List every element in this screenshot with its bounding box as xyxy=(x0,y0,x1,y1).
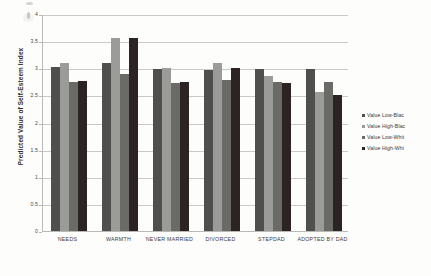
legend-swatch-icon xyxy=(362,147,365,150)
y-axis-tick-label: 2.5 xyxy=(14,93,38,98)
bar xyxy=(78,81,87,231)
bar-group xyxy=(247,15,298,231)
bar xyxy=(60,63,69,231)
bar xyxy=(213,63,222,231)
bar xyxy=(315,92,324,231)
bar xyxy=(153,69,162,231)
legend-label: Value High-Blac xyxy=(367,124,405,129)
bar xyxy=(162,68,171,231)
legend-label: Value High-Whi xyxy=(367,146,404,151)
bar xyxy=(204,70,213,231)
y-axis-tick-label: 1.5 xyxy=(14,148,38,153)
bar xyxy=(255,69,264,231)
x-axis-category-label: ADOPTED BY DAD xyxy=(297,236,348,243)
y-axis-tick-label: 0 xyxy=(14,229,38,234)
bar xyxy=(102,63,111,231)
legend-item[interactable]: Value High-Whi xyxy=(362,143,431,154)
chart-legend: Value Low-BlacValue High-BlacValue Low-W… xyxy=(362,110,431,154)
bar xyxy=(333,95,342,231)
y-axis-tick-label: 3.5 xyxy=(14,39,38,44)
bar xyxy=(264,76,273,231)
y-axis-tick-label: 1 xyxy=(14,175,38,180)
x-axis-category-label: WARMTH xyxy=(93,236,144,243)
y-axis-tick-label: 3 xyxy=(14,66,38,71)
bar xyxy=(222,80,231,231)
plot-area xyxy=(42,15,348,232)
bar xyxy=(180,82,189,231)
legend-item[interactable]: Value High-Blac xyxy=(362,121,431,132)
bar xyxy=(51,67,60,231)
y-axis-tick-mark xyxy=(39,232,42,233)
legend-label: Value Low-Whit xyxy=(367,135,404,140)
bar xyxy=(231,68,240,231)
x-axis-category-label: NEVER MARRIED xyxy=(144,236,195,243)
legend-swatch-icon xyxy=(362,125,365,128)
x-axis-category-label: STEPDAD xyxy=(246,236,297,243)
legend-item[interactable]: Value Low-Blac xyxy=(362,110,431,121)
legend-swatch-icon xyxy=(362,136,365,139)
y-axis-tick-label: 2 xyxy=(14,121,38,126)
bar-group xyxy=(94,15,145,231)
bar xyxy=(273,82,282,231)
bar xyxy=(69,82,78,231)
legend-item[interactable]: Value Low-Whit xyxy=(362,132,431,143)
bar-group xyxy=(43,15,94,231)
bar xyxy=(111,38,120,231)
bar xyxy=(129,38,138,231)
bar xyxy=(120,74,129,231)
legend-swatch-icon xyxy=(362,114,365,117)
bar-group xyxy=(196,15,247,231)
x-axis-category-label: DIVORCED xyxy=(195,236,246,243)
bar-group xyxy=(298,15,349,231)
scanned-page: Predicted Value of Self-Esteem Index 43.… xyxy=(0,0,431,276)
legend-label: Value Low-Blac xyxy=(367,113,404,118)
bar xyxy=(171,83,180,231)
bar xyxy=(282,83,291,231)
bar xyxy=(324,82,333,231)
bar xyxy=(306,69,315,231)
bar-group xyxy=(145,15,196,231)
y-axis-ticks: 43.532.521.510.50 xyxy=(12,15,38,232)
x-axis-category-label: NEEDS xyxy=(42,236,93,243)
bar-chart: Predicted Value of Self-Esteem Index 43.… xyxy=(0,0,431,276)
y-axis-tick-label: 4 xyxy=(14,12,38,17)
y-axis-tick-label: 0.5 xyxy=(14,202,38,207)
x-axis-labels: NEEDSWARMTHNEVER MARRIEDDIVORCEDSTEPDADA… xyxy=(42,236,348,266)
